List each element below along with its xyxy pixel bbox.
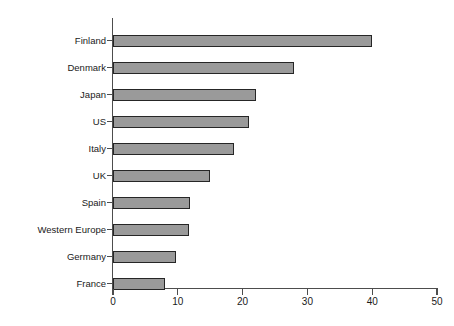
bar xyxy=(113,197,190,209)
category-label: France xyxy=(3,278,106,289)
category-label: Japan xyxy=(3,89,106,100)
bar xyxy=(113,224,189,236)
category-label: Western Europe xyxy=(3,224,106,235)
category-label: UK xyxy=(3,170,106,181)
category-label: US xyxy=(3,116,106,127)
bar xyxy=(113,143,234,155)
x-axis-tick xyxy=(372,289,373,295)
bar xyxy=(113,278,165,290)
bar xyxy=(113,62,294,74)
category-label: Denmark xyxy=(3,62,106,73)
bar xyxy=(113,251,176,263)
x-axis-tick xyxy=(436,289,437,295)
plot-area: FinlandDenmarkJapanUSItalyUKSpainWestern… xyxy=(113,18,437,288)
x-axis-tick xyxy=(307,289,308,295)
x-axis-tick-label: 30 xyxy=(287,296,327,308)
bar xyxy=(113,116,249,128)
category-label: Germany xyxy=(3,251,106,262)
category-label: Spain xyxy=(3,197,106,208)
x-axis-tick xyxy=(177,289,178,295)
x-axis-tick-label: 10 xyxy=(158,296,198,308)
category-label: Italy xyxy=(3,143,106,154)
bar-chart: FinlandDenmarkJapanUSItalyUKSpainWestern… xyxy=(0,0,454,326)
x-axis-tick-label: 40 xyxy=(352,296,392,308)
category-label: Finland xyxy=(3,35,106,46)
bar xyxy=(113,170,210,182)
x-axis-tick xyxy=(112,289,113,295)
x-axis-tick-label: 20 xyxy=(223,296,263,308)
bar xyxy=(113,89,256,101)
bar xyxy=(113,35,372,47)
x-axis-tick xyxy=(242,289,243,295)
x-axis-tick-label: 50 xyxy=(417,296,454,308)
x-axis-tick-label: 0 xyxy=(93,296,133,308)
